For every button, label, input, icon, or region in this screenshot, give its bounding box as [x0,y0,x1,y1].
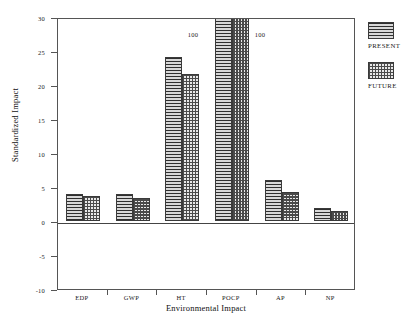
bar-pocp-present [215,19,232,221]
bar-gwp-present [116,194,133,221]
x-tick [256,290,257,295]
bar-ap-future [282,192,299,221]
chart-legend: PRESENT FUTURE [368,22,414,102]
y-tick [51,290,57,291]
y-axis-title: Standardized Impact [10,40,20,210]
x-axis-title: Environmental Impact [57,303,355,313]
bar-edp-future [83,196,100,221]
bar-pocp-future [232,19,249,221]
bar-ht-present [165,57,182,221]
bar-value-annotation: 100 [188,31,198,38]
y-tick-label: 5 [42,185,45,192]
y-tick-label: 20 [38,83,45,90]
bar-chart: Standardized Impact 302520151050-5-10 10… [0,0,416,320]
legend-swatch-present [368,22,394,39]
y-tick-label: 30 [38,15,45,22]
y-tick-label: 10 [38,151,45,158]
bar-gwp-future [133,198,150,221]
y-tick-label: -10 [36,287,45,294]
x-tick [156,290,157,295]
y-tick-label: 15 [38,117,45,124]
x-tick-label-ht: HT [177,294,186,301]
plot-area: 100100 [57,18,355,290]
y-tick-label: 0 [42,219,45,226]
x-tick-label-gwp: GWP [124,294,139,301]
bar-np-future [331,211,348,221]
y-tick-label: -5 [39,253,45,260]
x-tick-label-edp: EDP [75,294,88,301]
legend-swatch-future [368,62,394,79]
legend-label-present: PRESENT [368,42,414,49]
plot-inner: 100100 [58,19,354,289]
x-tick [107,290,108,295]
x-tick-label-pocp: POCP [222,294,239,301]
x-tick-label-ap: AP [276,294,285,301]
zero-baseline [58,223,354,224]
legend-label-future: FUTURE [368,82,414,89]
bar-ht-future [182,74,199,221]
bar-value-annotation: 100 [255,31,265,38]
x-tick-label-np: NP [326,294,335,301]
y-tick-label: 25 [38,49,45,56]
x-tick [305,290,306,295]
bar-ap-present [265,180,282,221]
legend-item-future: FUTURE [368,62,414,89]
legend-item-present: PRESENT [368,22,414,49]
bar-edp-present [66,194,83,221]
x-tick [206,290,207,295]
bar-np-present [314,208,331,221]
